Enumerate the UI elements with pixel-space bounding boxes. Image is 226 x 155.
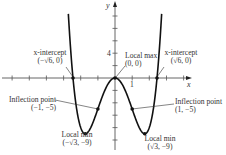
- xint-right-point: (√6, 0): [155, 57, 207, 65]
- localmax-dot: [113, 76, 117, 80]
- infl-right-point: (1, −5): [175, 106, 222, 114]
- function-graph: [0, 0, 226, 155]
- xint-right-dot: [155, 76, 159, 80]
- xint-left-annotation: x-intercept (−√6, 0): [24, 49, 76, 65]
- infl-left-dot: [96, 107, 100, 111]
- localmax-annotation: Local max (0, 0): [125, 52, 157, 68]
- y-tick-label-4: 4: [107, 50, 111, 58]
- xint-left-point: (−√6, 0): [24, 57, 76, 65]
- x-tick-label-1: 1: [130, 81, 134, 89]
- xint-right-annotation: x-intercept (√6, 0): [155, 49, 207, 65]
- infl-right-annotation: Inflection point (1, −5): [175, 98, 222, 114]
- min-left-annotation: Local min (−√3, −9): [56, 131, 98, 147]
- xint-left-dot: [71, 76, 75, 80]
- min-left-point: (−√3, −9): [56, 139, 98, 147]
- infl-left-point: (−1, −5): [6, 104, 56, 112]
- min-right-point: (√3, −9): [139, 143, 181, 151]
- localmax-point: (0, 0): [125, 60, 157, 68]
- min-right-annotation: Local min (√3, −9): [139, 135, 181, 151]
- infl-right-dot: [130, 107, 134, 111]
- infl-left-annotation: Inflection point (−1, −5): [6, 96, 56, 112]
- y-axis-label: y: [106, 2, 110, 10]
- y-axis-arrow-icon: [113, 1, 117, 7]
- x-axis-label: x: [187, 81, 191, 89]
